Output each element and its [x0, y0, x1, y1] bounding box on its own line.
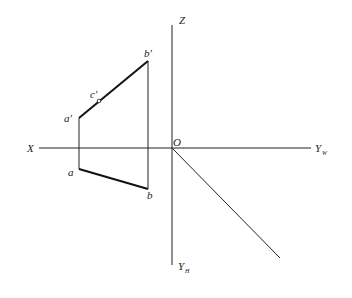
yh-axis-subscript: H: [184, 268, 190, 274]
projection-diagram: X Z O Y W Y H b' c' a' a b: [0, 0, 352, 298]
point-a-prime-label: a': [64, 112, 73, 124]
construction-line-45: [172, 148, 280, 258]
point-a-label: a: [68, 166, 74, 178]
z-axis-label: Z: [179, 14, 186, 26]
x-axis-label: X: [26, 142, 35, 154]
line-ab: [79, 169, 148, 189]
point-c-prime-marker: [97, 99, 101, 103]
point-b-label: b: [147, 189, 153, 201]
point-c-prime-label: c': [90, 88, 98, 100]
yw-axis-subscript: W: [322, 150, 328, 156]
point-b-prime-label: b': [144, 47, 153, 59]
origin-label: O: [173, 136, 181, 148]
